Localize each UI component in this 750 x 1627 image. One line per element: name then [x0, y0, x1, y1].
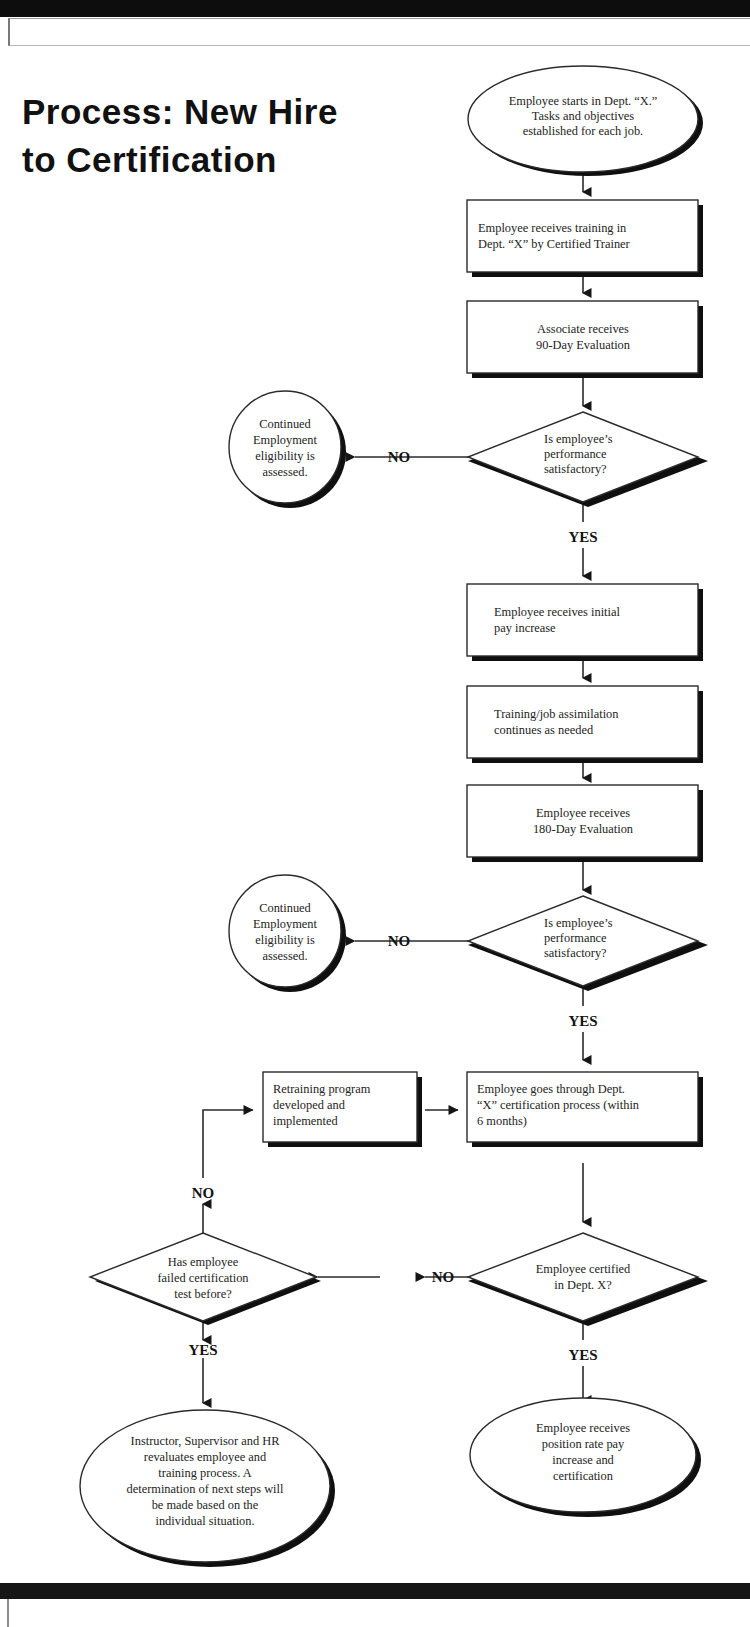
node-positionrate-line1: Employee receives [536, 1421, 630, 1435]
node-revaluate-line1: Instructor, Supervisor and HR [131, 1434, 281, 1448]
node-certified-line2: in Dept. X? [554, 1278, 611, 1292]
node-revaluate-line4: determination of next steps will [127, 1482, 284, 1496]
node-decision90-line3: satisfactory? [544, 462, 607, 476]
node-eval180: Employee receives 180-Day Evaluation [467, 785, 703, 862]
node-decision90: Is employee’s performance satisfactory? [468, 412, 708, 507]
node-assimilation: Training/job assimilation continues as n… [467, 686, 703, 763]
node-revaluate-line2: revaluates employee and [144, 1450, 267, 1464]
node-eval90-line2: 90-Day Evaluation [536, 338, 630, 352]
node-positionrate-line3: increase and [552, 1453, 614, 1467]
node-failedbefore-line2: failed certification [157, 1271, 248, 1285]
node-decision180: Is employee’s performance satisfactory? [468, 896, 708, 991]
node-decision180-line2: performance [544, 931, 607, 945]
node-retraining-line2: developed and [273, 1098, 346, 1112]
node-assimilation-fill [467, 686, 698, 758]
node-continued1-line2: Employment [253, 433, 318, 447]
node-certified-fill [468, 1233, 698, 1321]
node-training: Employee receives training in Dept. “X” … [467, 200, 703, 277]
node-training-line2: Dept. “X” by Certified Trainer [478, 237, 631, 251]
node-training-fill [467, 200, 698, 272]
node-certprocess: Employee goes through Dept. “X” certific… [467, 1072, 703, 1147]
node-positionrate-line4: certification [553, 1469, 613, 1483]
node-failedbefore: Has employee failed certification test b… [90, 1233, 321, 1325]
node-positionrate-line2: position rate pay [542, 1437, 625, 1451]
node-decision90-line1: Is employee’s [544, 432, 613, 446]
node-payincrease-line2: pay increase [494, 621, 556, 635]
node-continued2-line4: assessed. [262, 949, 307, 963]
node-positionrate: Employee receives position rate pay incr… [470, 1398, 701, 1517]
node-failedbefore-line1: Has employee [168, 1255, 239, 1269]
node-continued1: Continued Employment eligibility is asse… [229, 391, 346, 508]
scanned-page: Process: New Hire to Certification [0, 0, 750, 1627]
edge-label-yes-180: YES [568, 1013, 597, 1029]
node-assimilation-line1: Training/job assimilation [494, 707, 619, 721]
node-continued1-line3: eligibility is [255, 449, 315, 463]
node-start-line3: established for each job. [523, 124, 643, 138]
node-continued1-line1: Continued [259, 417, 311, 431]
node-payincrease-fill [467, 584, 698, 656]
edge-label-no-failed: NO [192, 1185, 215, 1201]
node-revaluate-line6: individual situation. [155, 1514, 254, 1528]
node-certified-line1: Employee certified [536, 1262, 631, 1276]
scan-artifact-bottom-bar [0, 1583, 750, 1599]
node-eval180-line2: 180-Day Evaluation [533, 822, 633, 836]
edge-label-yes-certified: YES [568, 1347, 597, 1363]
node-eval90: Associate receives 90-Day Evaluation [467, 301, 703, 378]
node-eval180-line1: Employee receives [536, 806, 630, 820]
node-eval90-fill [467, 301, 698, 373]
node-start: Employee starts in Dept. “X.” Tasks and … [468, 66, 703, 176]
node-eval180-fill [467, 785, 698, 857]
node-eval90-line1: Associate receives [537, 322, 629, 336]
node-retraining-line1: Retraining program [273, 1082, 371, 1096]
node-training-line1: Employee receives training in [478, 221, 626, 235]
node-start-line2: Tasks and objectives [532, 109, 635, 123]
node-certprocess-line3: 6 months) [477, 1114, 527, 1128]
edge-label-no-certified: NO [432, 1269, 455, 1285]
node-assimilation-line2: continues as needed [494, 723, 594, 737]
node-start-line1: Employee starts in Dept. “X.” [509, 94, 658, 108]
node-continued2-line2: Employment [253, 917, 318, 931]
page-footer-tick [7, 1599, 9, 1627]
edge-label-yes-90: YES [568, 529, 597, 545]
edge-label-yes-failed: YES [188, 1342, 217, 1358]
node-certified: Employee certified in Dept. X? [468, 1233, 708, 1326]
node-continued2-line1: Continued [259, 901, 311, 915]
edge-failedbefore-no-to-retraining [203, 1110, 253, 1178]
node-retraining-line3: implemented [273, 1114, 338, 1128]
node-failedbefore-line3: test before? [174, 1287, 231, 1301]
node-continued1-line4: assessed. [262, 465, 307, 479]
flowchart-canvas: Employee starts in Dept. “X.” Tasks and … [0, 0, 750, 1627]
node-certprocess-line2: “X” certification process (within [477, 1098, 639, 1112]
node-payincrease-line1: Employee receives initial [494, 605, 620, 619]
node-decision90-line2: performance [544, 447, 607, 461]
node-payincrease: Employee receives initial pay increase [467, 584, 703, 661]
node-decision180-line1: Is employee’s [544, 916, 613, 930]
node-decision180-line3: satisfactory? [544, 946, 607, 960]
node-continued2: Continued Employment eligibility is asse… [229, 875, 346, 992]
node-revaluate-line5: be made based on the [152, 1498, 259, 1512]
node-revaluate: Instructor, Supervisor and HR revaluates… [80, 1410, 335, 1567]
node-continued2-line3: eligibility is [255, 933, 315, 947]
node-certprocess-line1: Employee goes through Dept. [477, 1082, 625, 1096]
edge-label-no-90: NO [388, 449, 411, 465]
edge-label-no-180: NO [388, 933, 411, 949]
node-retraining: Retraining program developed and impleme… [263, 1072, 422, 1147]
node-revaluate-line3: training process. A [158, 1466, 251, 1480]
